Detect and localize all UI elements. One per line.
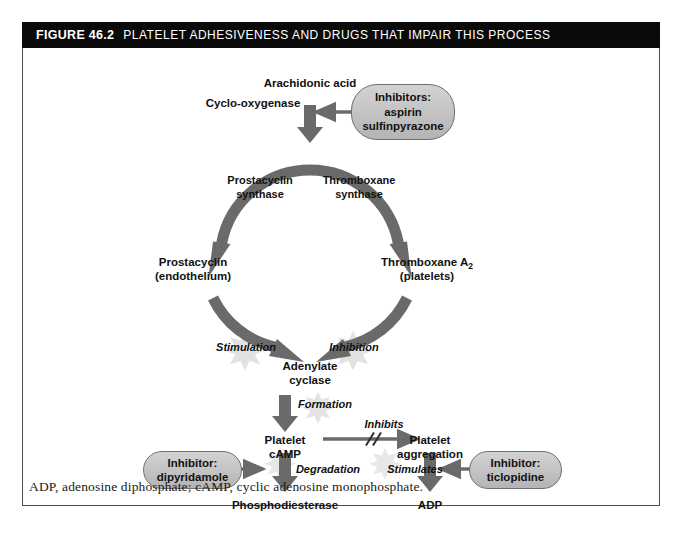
arrow-inhibits [323, 433, 417, 446]
inhibitor-box-aspirin-line1: Inhibitors: [375, 90, 431, 105]
arc-thromboxane-synthase [310, 170, 412, 277]
inhibitor-box-aspirin-line3: sulfinpyrazone [362, 119, 443, 134]
starburst-stimulates [369, 448, 401, 480]
figure-number: FIGURE 46.2 [36, 28, 114, 42]
inhibitor-box-ticlopidine-line2: ticlopidine [487, 470, 545, 485]
arrow-formation-down [272, 395, 298, 432]
arc-prostacyclin-synthase [209, 170, 311, 277]
starburst-formation [302, 392, 334, 424]
inhibitor-box-dipyridamole-line1: Inhibitor: [168, 456, 218, 471]
inhibitor-box-ticlopidine[interactable]: Inhibitor: ticlopidine [469, 451, 562, 489]
figure-title: PLATELET ADHESIVENESS AND DRUGS THAT IMP… [123, 28, 550, 42]
diagram-canvas [23, 48, 661, 506]
figure-body-panel: Arachidonic acid Cyclo-oxygenase Prostac… [22, 48, 660, 506]
inhibitor-box-aspirin-line2: aspirin [384, 105, 422, 120]
figure-title-bar: FIGURE 46.2 PLATELET ADHESIVENESS AND DR… [22, 22, 660, 48]
figure-container: FIGURE 46.2 PLATELET ADHESIVENESS AND DR… [22, 22, 660, 506]
inhibitor-box-ticlopidine-line1: Inhibitor: [491, 456, 541, 471]
inhibitor-box-aspirin[interactable]: Inhibitors: aspirin sulfinpyrazone [351, 84, 455, 140]
figure-footnote: ADP, adenosine diphosphate; cAMP, cyclic… [29, 479, 423, 495]
